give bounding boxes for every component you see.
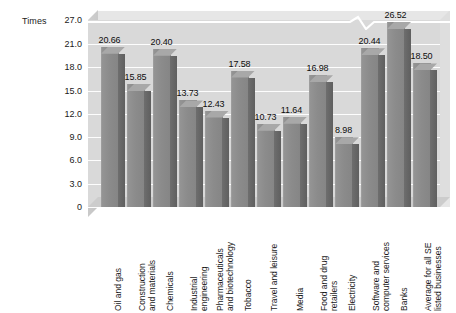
x-axis-category-labels: Oil and gasConstructionand materialsChem… [0, 213, 456, 313]
bar: 18.50 [413, 63, 430, 207]
bar-side-face [222, 118, 229, 207]
bar: 8.98 [335, 137, 352, 207]
bar-value-label: 20.66 [98, 35, 120, 45]
bar-front-face [413, 63, 431, 207]
bar-value-label: 20.40 [150, 37, 172, 47]
bar-side-face [378, 55, 385, 207]
bar-value-label: 16.98 [306, 63, 328, 73]
x-axis-category-label: Constructionand materials [137, 213, 157, 311]
bar-value-label: 10.73 [254, 112, 276, 122]
bar: 26.52 [387, 22, 404, 207]
x-axis-category-label-line: Electricity [347, 213, 357, 311]
x-axis-category-label-line: Construction [137, 213, 147, 311]
bar-value-label: 18.50 [410, 51, 432, 61]
x-axis-category-label-line: Industrial [189, 213, 199, 311]
bar-front-face [127, 84, 145, 207]
x-axis-category-label-line: computer services [381, 213, 391, 311]
bar-front-face [257, 124, 275, 207]
bar-side-face [196, 107, 203, 207]
bar-value-label: 26.52 [384, 10, 406, 20]
x-axis-category-label: Average for all SElisted businesses [423, 213, 443, 311]
x-axis-category-label-line: listed businesses [433, 213, 443, 311]
x-axis-category-label: Oil and gas [113, 213, 123, 311]
bar-front-face [101, 47, 119, 207]
bar: 20.44 [361, 48, 378, 207]
bar-value-label: 13.73 [176, 88, 198, 98]
x-axis-category-label-line: Travel and leisure [269, 213, 279, 311]
bar-front-face [205, 111, 223, 207]
bar: 17.58 [231, 71, 248, 207]
x-axis-category-label-line: and materials [147, 213, 157, 311]
x-axis-category-label-line: Media [295, 213, 305, 311]
bar-side-face [326, 82, 333, 207]
bar-value-label: 15.85 [124, 72, 146, 82]
bar: 12.43 [205, 111, 222, 207]
bar-front-face [387, 22, 405, 207]
bar-value-label: 17.58 [228, 59, 250, 69]
x-axis-category-label-line: Food and drug [319, 213, 329, 311]
bar-side-face [352, 144, 359, 207]
x-axis-category-label: Software andcomputer services [371, 213, 391, 311]
bar-front-face [309, 75, 327, 207]
bar: 20.66 [101, 47, 118, 207]
x-axis-category-label-line: Pharmaceuticals [215, 213, 225, 311]
bar-front-face [361, 48, 379, 207]
x-axis-category-label-line: Chemicals [165, 213, 175, 311]
bar-side-face [248, 78, 255, 207]
bar-front-face [231, 71, 249, 207]
x-axis-category-label-line: retailers [329, 213, 339, 311]
bar-value-label: 12.43 [202, 99, 224, 109]
x-axis-category-label-line: Tobacco [243, 213, 253, 311]
x-axis-category-label: Industrialengineering [189, 213, 209, 311]
x-axis-category-label: Travel and leisure [269, 213, 279, 311]
bar-side-face [170, 56, 177, 207]
bar-front-face [153, 49, 171, 207]
bar: 10.73 [257, 124, 274, 207]
bar: 20.40 [153, 49, 170, 207]
bar: 13.73 [179, 100, 196, 207]
x-axis-category-label-line: Oil and gas [113, 213, 123, 311]
x-axis-category-label: Pharmaceuticalsand biotechnology [215, 213, 235, 311]
bar-side-face [274, 131, 281, 207]
bar: 16.98 [309, 75, 326, 207]
x-axis-category-label-line: Banks [399, 213, 409, 311]
bar: 15.85 [127, 84, 144, 207]
bar-front-face [179, 100, 197, 207]
x-axis-category-label: Banks [399, 213, 409, 311]
x-axis-category-label: Tobacco [243, 213, 253, 311]
x-axis-category-label: Chemicals [165, 213, 175, 311]
bar-value-label: 11.64 [281, 105, 302, 115]
bar-value-label: 8.98 [335, 125, 352, 135]
bar-side-face [430, 70, 437, 207]
bar-value-label: 20.44 [358, 36, 380, 46]
x-axis-category-label-line: and biotechnology [225, 213, 235, 311]
chart-canvas: Times 27.021.018.015.012.09.06.03.00 20.… [0, 0, 456, 313]
bar: 11.64 [283, 117, 300, 207]
x-axis-category-label-line: engineering [199, 213, 209, 311]
x-axis-category-label: Food and drugretailers [319, 213, 339, 311]
bar-front-face [335, 137, 353, 207]
bar-side-face [144, 91, 151, 207]
x-axis-category-label-line: Software and [371, 213, 381, 311]
bar-side-face [300, 124, 307, 207]
bar-front-face [283, 117, 301, 207]
x-axis-category-label: Electricity [347, 213, 357, 311]
x-axis-category-label: Media [295, 213, 305, 311]
x-axis-category-label-line: Average for all SE [423, 213, 433, 311]
